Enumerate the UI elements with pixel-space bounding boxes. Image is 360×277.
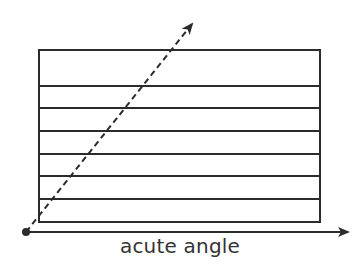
rectangle-stripes bbox=[39, 86, 320, 199]
angled-dashed-ray bbox=[26, 24, 192, 232]
striped-rectangle bbox=[39, 50, 320, 222]
angle-caption: acute angle bbox=[0, 234, 360, 258]
